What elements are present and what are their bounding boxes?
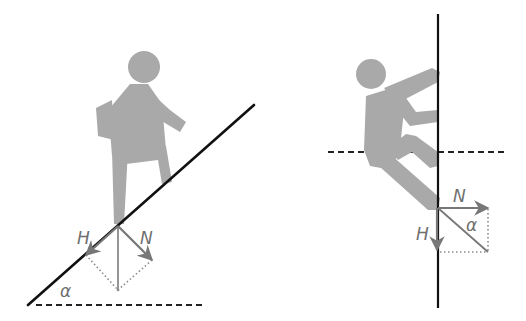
force-decomposition-dotted bbox=[86, 255, 152, 290]
left-panel-slope: H N α bbox=[28, 51, 254, 305]
n-label: N bbox=[140, 228, 153, 248]
n-label: N bbox=[453, 186, 466, 206]
alpha-label: α bbox=[60, 281, 71, 301]
climbing-person-icon bbox=[356, 59, 440, 210]
force-diagram: H N α bbox=[0, 0, 526, 321]
walking-person-icon bbox=[96, 51, 186, 224]
resultant-vector bbox=[438, 208, 488, 252]
h-label: H bbox=[77, 228, 90, 248]
h-label: H bbox=[416, 224, 429, 244]
alpha-label: α bbox=[466, 215, 477, 235]
right-panel-wall: N H α bbox=[328, 14, 505, 308]
h-force-arrow bbox=[86, 226, 118, 255]
